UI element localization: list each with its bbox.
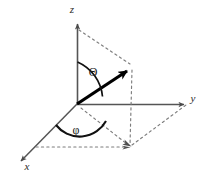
projection-arrowhead-left [122, 146, 131, 150]
dashed-guides-group [36, 30, 186, 147]
polar-angle-label: Θ [89, 65, 98, 79]
y-axis-label: y [190, 92, 196, 104]
radial-vector-shaft [77, 71, 127, 104]
spherical-coordinate-diagram: z y x Θ φ [0, 0, 207, 173]
projection-to-y-guide [132, 105, 186, 145]
tip-to-projection-drop [130, 70, 132, 145]
azimuthal-angle-arc [56, 121, 106, 137]
azimuthal-angle-label: φ [73, 123, 80, 137]
z-to-tip-guide [79, 30, 130, 64]
radial-vector-group [77, 71, 127, 104]
origin-to-projection-guide [81, 108, 127, 144]
diagram-canvas: z y x Θ φ [0, 0, 207, 173]
x-axis-label: x [24, 160, 30, 172]
x-axis-line [21, 104, 77, 161]
z-axis-label: z [69, 3, 75, 15]
angle-arcs-group [56, 62, 106, 137]
